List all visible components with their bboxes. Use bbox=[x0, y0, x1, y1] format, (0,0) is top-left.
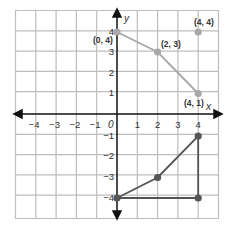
x-tick: −2 bbox=[69, 119, 80, 130]
x-tick: −3 bbox=[49, 119, 60, 130]
point-4-neg4 bbox=[195, 194, 202, 201]
point-0-4 bbox=[113, 28, 120, 35]
y-axis-down-arrow-icon bbox=[113, 211, 121, 219]
y-tick: −4 bbox=[103, 192, 114, 203]
y-tick: −2 bbox=[103, 150, 114, 161]
point-0-neg4 bbox=[113, 194, 120, 201]
x-tick: 4 bbox=[196, 119, 201, 130]
point-4-neg1 bbox=[195, 132, 202, 139]
coordinate-plane: y x 0 −4 −3 −2 −1 1 2 3 4 4 3 2 1 −1 −2 … bbox=[0, 0, 229, 234]
point-2-neg3 bbox=[154, 174, 161, 181]
label-0-4: (0, 4) bbox=[93, 35, 113, 45]
y-tick: −1 bbox=[103, 130, 114, 141]
point-2-3 bbox=[154, 48, 161, 55]
point-4-4 bbox=[195, 28, 202, 35]
x-tick: 2 bbox=[155, 119, 160, 130]
axes bbox=[14, 9, 222, 219]
point-4-1 bbox=[195, 90, 202, 97]
x-axis-right-arrow-icon bbox=[214, 110, 222, 118]
x-tick: 1 bbox=[135, 119, 140, 130]
y-tick: 2 bbox=[109, 67, 114, 78]
x-tick: −4 bbox=[29, 119, 40, 130]
x-tick: 3 bbox=[175, 119, 180, 130]
label-2-3: (2, 3) bbox=[161, 39, 181, 49]
label-4-4: (4, 4) bbox=[194, 17, 214, 27]
x-axis-label: x bbox=[205, 101, 212, 112]
origin-label: 0 bbox=[108, 119, 114, 130]
y-axis-label: y bbox=[123, 13, 130, 24]
y-tick: −3 bbox=[103, 171, 114, 182]
label-4-1: (4, 1) bbox=[184, 98, 204, 108]
x-tick-labels: −4 −3 −2 −1 1 2 3 4 bbox=[29, 119, 201, 130]
x-tick: −1 bbox=[90, 119, 101, 130]
y-tick: 3 bbox=[109, 46, 114, 57]
y-tick: 1 bbox=[109, 87, 114, 98]
